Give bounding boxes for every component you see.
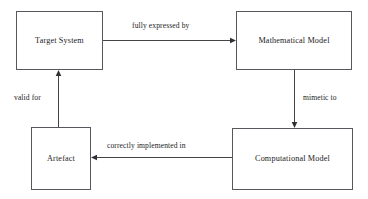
arrow-correctly-implemented-in [91, 155, 232, 161]
node-mathematical-model-label: Mathematical Model [258, 36, 329, 46]
node-artefact[interactable]: Artefact [31, 127, 91, 190]
edge-label-mimetic-to: mimetic to [303, 93, 337, 102]
edge-label-valid-for: valid for [14, 93, 41, 102]
edge-label-fully-expressed-by: fully expressed by [132, 21, 189, 30]
arrow-valid-for [56, 70, 62, 127]
diagram-canvas: Target System Mathematical Model Artefac… [0, 0, 368, 199]
node-target-system-label: Target System [35, 36, 84, 46]
arrow-mimetic-to [292, 70, 298, 128]
edge-label-correctly-implemented-in: correctly implemented in [107, 141, 186, 150]
node-target-system[interactable]: Target System [16, 11, 103, 70]
node-computational-model[interactable]: Computational Model [232, 128, 353, 190]
arrow-fully-expressed-by [103, 38, 236, 44]
node-mathematical-model[interactable]: Mathematical Model [236, 11, 352, 70]
node-computational-model-label: Computational Model [255, 154, 330, 164]
node-artefact-label: Artefact [47, 154, 75, 164]
